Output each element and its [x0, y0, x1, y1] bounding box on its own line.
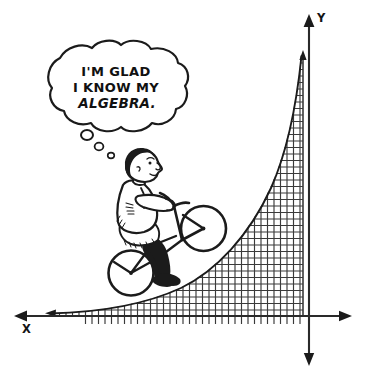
y-axis-label: Y [316, 11, 326, 25]
thought-trail-bubble-3 [108, 153, 115, 159]
thought-line-2: I KNOW MY [73, 80, 159, 95]
boy-eye [149, 162, 152, 165]
y-axis-bottom-arrowhead [304, 353, 314, 366]
thought-line-1: I'M GLAD [81, 64, 150, 79]
y-axis-top-arrowhead [304, 14, 315, 27]
grid-boundary-arrowhead [299, 50, 306, 60]
thought-bubble: I'M GLAD I KNOW MY ALGEBRA. [48, 41, 188, 159]
thought-line-3: ALGEBRA. [77, 95, 155, 111]
x-axis-left-arrowhead [14, 310, 27, 321]
cartoon-canvas: Y X [0, 0, 365, 385]
boy-on-bicycle [109, 148, 227, 296]
cartoon-illustration: Y X [0, 0, 365, 385]
x-axis-right-arrowhead [339, 311, 352, 321]
thought-trail-bubble-2 [95, 143, 104, 151]
thought-trail-bubble-1 [81, 130, 93, 140]
x-axis-label: X [22, 322, 31, 336]
x-axis-tick-marks [86, 316, 301, 324]
